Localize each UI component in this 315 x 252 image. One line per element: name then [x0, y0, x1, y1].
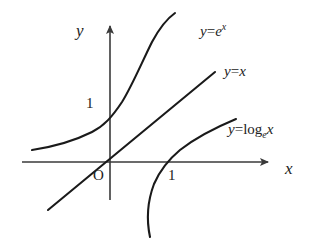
math-figure: y x O 1 1 y=ex y=x y=logex [0, 0, 315, 252]
curve-label-logarithm: y=logex [228, 122, 273, 140]
x-axis-tick-1: 1 [168, 168, 176, 183]
exp-base: e [215, 23, 222, 39]
log-lhs: y [228, 121, 235, 137]
identity-lhs: y [224, 63, 231, 79]
identity-equals: = [231, 63, 239, 79]
exp-lhs: y [200, 23, 207, 39]
log-equals: = [235, 121, 243, 137]
y-axis-label: y [76, 22, 84, 39]
y-axis-tick-1: 1 [86, 96, 94, 111]
x-axis-label: x [285, 160, 293, 177]
curve-label-exponential: y=ex [200, 22, 226, 39]
curve-exponential [32, 13, 175, 150]
log-argument: x [267, 121, 274, 137]
identity-rhs: x [239, 63, 246, 79]
curve-logarithm [148, 119, 236, 237]
exp-equals: = [207, 23, 215, 39]
exp-exponent: x [222, 21, 226, 32]
log-function-name: log [243, 121, 262, 137]
curve-label-identity: y=x [224, 64, 246, 79]
origin-label: O [93, 168, 104, 183]
